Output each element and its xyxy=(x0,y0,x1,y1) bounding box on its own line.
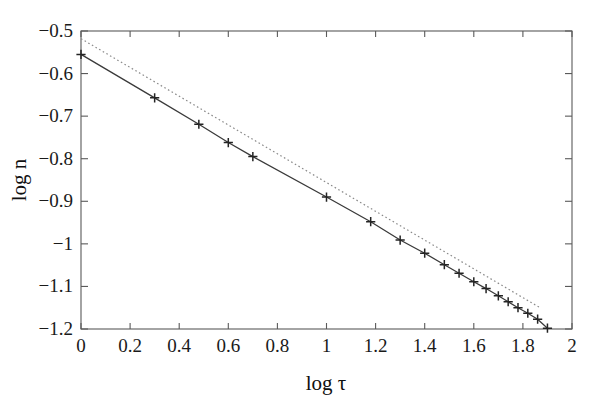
data-solid-line xyxy=(81,54,547,328)
y-tick-label-7: −1.2 xyxy=(39,318,73,339)
x-tick-label-0: 0 xyxy=(76,335,86,356)
data-point-marker-1 xyxy=(150,93,159,102)
y-tick-label-2: −0.7 xyxy=(39,105,73,126)
y-tick-label-4: −0.9 xyxy=(39,190,73,211)
y-tick-label-5: −1 xyxy=(53,233,73,254)
x-tick-label-9: 1.8 xyxy=(511,335,535,356)
y-axis-tick-labels: −0.5−0.6−0.7−0.8−0.9−1−1.1−1.2 xyxy=(39,20,73,339)
x-axis-ticks xyxy=(81,31,572,329)
x-axis-tick-labels: 00.20.40.60.811.21.41.61.82 xyxy=(76,335,577,356)
x-tick-label-6: 1.2 xyxy=(364,335,388,356)
y-tick-label-6: −1.1 xyxy=(39,275,73,296)
x-tick-label-2: 0.4 xyxy=(167,335,191,356)
data-point-marker-6 xyxy=(366,217,375,226)
data-point-marker-5 xyxy=(322,192,331,201)
data-point-marker-8 xyxy=(420,249,429,258)
y-tick-label-1: −0.6 xyxy=(39,63,73,84)
data-point-marker-14 xyxy=(504,297,513,306)
plot-frame-rect xyxy=(81,31,572,329)
data-point-marker-12 xyxy=(481,284,490,293)
data-point-marker-2 xyxy=(194,120,203,129)
series-1 xyxy=(81,39,540,308)
line-chart: 00.20.40.60.811.21.41.61.82 −0.5−0.6−0.7… xyxy=(0,0,609,401)
data-point-marker-4 xyxy=(248,152,257,161)
data-point-marker-3 xyxy=(224,138,233,147)
y-axis-title: log n xyxy=(7,158,31,201)
data-point-marker-7 xyxy=(396,235,405,244)
x-tick-label-10: 2 xyxy=(567,335,577,356)
data-series-group xyxy=(76,39,552,333)
y-tick-label-0: −0.5 xyxy=(39,20,73,41)
data-point-marker-0 xyxy=(76,50,85,59)
x-tick-label-4: 0.8 xyxy=(266,335,290,356)
reference-dotted-line xyxy=(81,39,540,308)
x-tick-label-8: 1.6 xyxy=(462,335,486,356)
series-0 xyxy=(76,50,552,333)
data-point-marker-9 xyxy=(440,260,449,269)
data-point-marker-13 xyxy=(494,291,503,300)
figure-container: 00.20.40.60.811.21.41.61.82 −0.5−0.6−0.7… xyxy=(0,0,609,401)
y-tick-label-3: −0.8 xyxy=(39,148,73,169)
x-tick-label-1: 0.2 xyxy=(118,335,142,356)
x-tick-label-7: 1.4 xyxy=(413,335,437,356)
data-point-marker-11 xyxy=(469,277,478,286)
x-tick-label-3: 0.6 xyxy=(216,335,240,356)
data-point-marker-10 xyxy=(454,269,463,278)
x-axis-title: log τ xyxy=(306,371,347,395)
plot-frame xyxy=(81,31,572,329)
data-point-marker-16 xyxy=(523,309,532,318)
y-axis-ticks xyxy=(81,31,572,329)
x-tick-label-5: 1 xyxy=(322,335,332,356)
data-point-marker-15 xyxy=(513,303,522,312)
